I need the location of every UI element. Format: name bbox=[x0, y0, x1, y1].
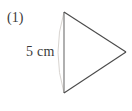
side-length-label: 5 cm bbox=[26, 45, 55, 59]
item-number-label: (1) bbox=[7, 11, 23, 25]
triangle-lower-side bbox=[64, 52, 126, 93]
triangle-upper-side bbox=[64, 12, 126, 52]
geometry-figure: (1) 5 cm bbox=[0, 0, 132, 111]
compass-arc bbox=[58, 12, 64, 93]
